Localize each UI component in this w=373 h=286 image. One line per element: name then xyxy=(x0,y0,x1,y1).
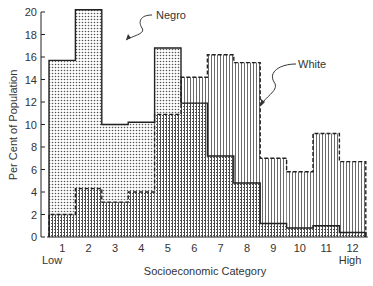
x-tick-label: 4 xyxy=(138,242,144,254)
negro-bar-5 xyxy=(155,48,181,114)
white-bar-8 xyxy=(234,63,260,183)
x-axis-label: Socioeconomic Category xyxy=(144,265,267,277)
negro-bar-4 xyxy=(128,122,154,192)
overlap-bar-7 xyxy=(207,156,233,237)
y-tick-label: 12 xyxy=(25,96,37,108)
annotation-white-label: White xyxy=(298,58,326,70)
x-low-label: Low xyxy=(42,254,62,266)
x-tick-label: 5 xyxy=(165,242,171,254)
overlap-bar-5 xyxy=(155,114,181,237)
x-tick-label: 11 xyxy=(320,242,331,254)
white-bar-10 xyxy=(287,172,313,228)
y-tick-label: 6 xyxy=(31,164,37,176)
x-tick-label: 10 xyxy=(294,242,306,254)
x-tick-label: 3 xyxy=(112,242,118,254)
x-tick-label: 1 xyxy=(59,242,65,254)
y-tick-label: 20 xyxy=(25,6,37,18)
annotation-negro-label: Negro xyxy=(156,9,186,21)
y-tick-label: 4 xyxy=(31,186,37,198)
x-tick-label: 12 xyxy=(346,242,358,254)
white-bar-11 xyxy=(313,134,339,226)
negro-bar-2 xyxy=(75,10,101,189)
x-tick-label: 2 xyxy=(86,242,92,254)
y-tick-label: 8 xyxy=(31,141,37,153)
annotation-negro: Negro xyxy=(126,9,186,40)
y-tick-label: 14 xyxy=(25,74,37,86)
x-tick-label: 8 xyxy=(244,242,250,254)
y-tick-label: 2 xyxy=(31,209,37,221)
negro-bar-1 xyxy=(49,60,75,214)
overlap-bar-1 xyxy=(49,215,75,238)
y-tick-label: 10 xyxy=(25,119,37,131)
white-bar-7 xyxy=(207,55,233,156)
x-tick-label: 7 xyxy=(218,242,224,254)
x-tick-label: 9 xyxy=(270,242,276,254)
annotation-white: White xyxy=(261,58,326,106)
white-bar-12 xyxy=(339,162,365,233)
overlap-bar-10 xyxy=(287,228,313,237)
histogram-chart: 12345678910111202468101214161820 Per Cen… xyxy=(0,0,373,286)
y-tick-label: 16 xyxy=(25,51,37,63)
overlap-bar-4 xyxy=(128,192,154,237)
y-axis-label: Per Cent of Population xyxy=(7,70,19,181)
y-tick-label: 18 xyxy=(25,29,37,41)
overlap-bar-6 xyxy=(181,103,207,237)
overlap-bar-11 xyxy=(313,226,339,237)
white-bar-6 xyxy=(181,77,207,103)
overlap-bar-8 xyxy=(234,183,260,237)
negro-bar-3 xyxy=(102,125,128,203)
x-tick-label: 6 xyxy=(191,242,197,254)
overlap-bar-2 xyxy=(75,189,101,237)
y-tick-label: 0 xyxy=(31,231,37,243)
white-bar-9 xyxy=(260,158,286,223)
x-high-label: High xyxy=(339,254,362,266)
overlap-bar-3 xyxy=(102,202,128,237)
overlap-bar-9 xyxy=(260,224,286,238)
